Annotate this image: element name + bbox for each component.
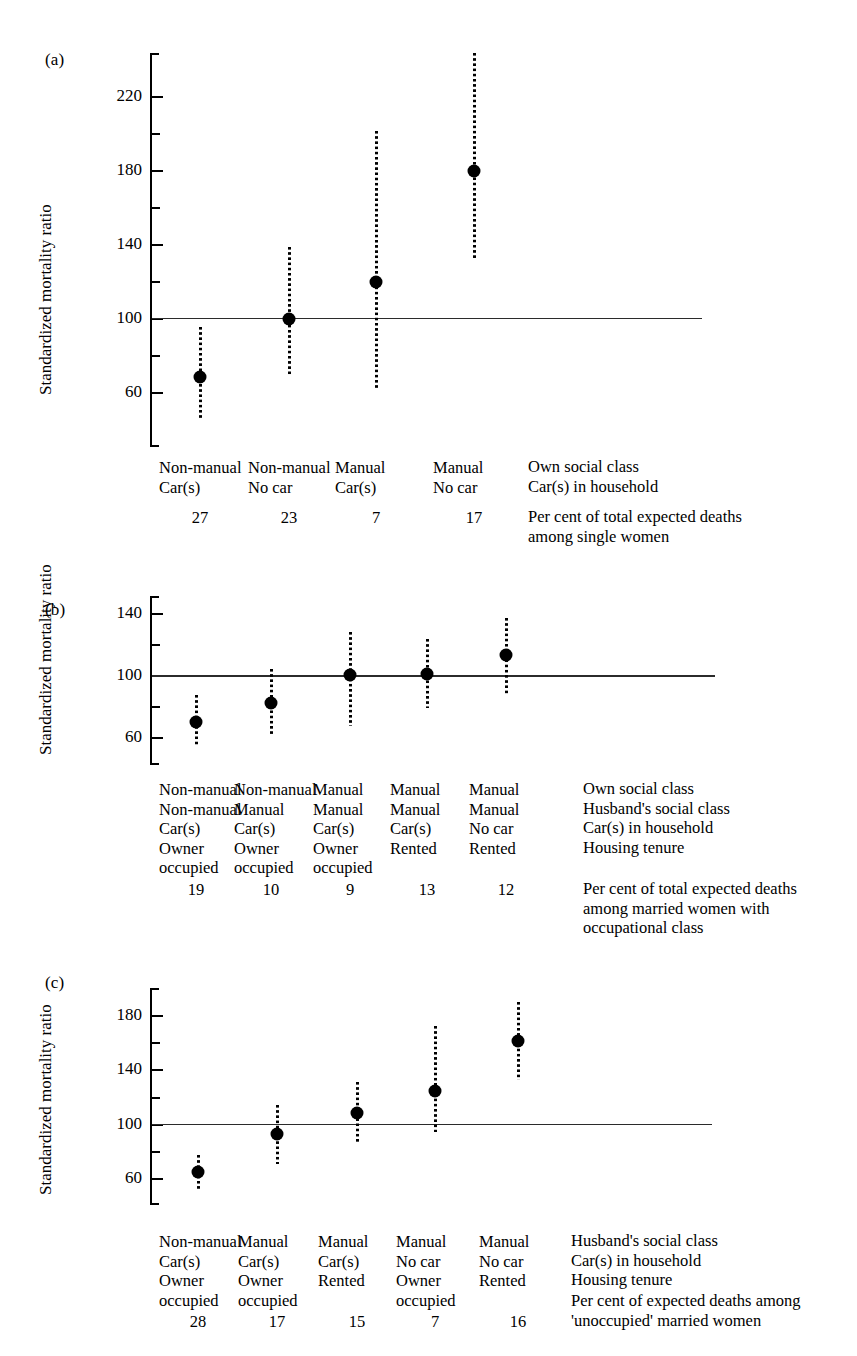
- percent-value: 13: [397, 880, 457, 900]
- percent-value: 28: [168, 1312, 228, 1332]
- percent-value: 9: [320, 880, 380, 900]
- reference-line-100: [152, 675, 715, 677]
- percent-value: 27: [170, 508, 230, 528]
- y-axis-top-cap: [150, 53, 159, 55]
- y-tick-major: [152, 1069, 163, 1071]
- category-label: Non-manual No car: [248, 458, 330, 497]
- percent-value: 17: [444, 508, 504, 528]
- percent-value: 12: [476, 880, 536, 900]
- category-label: Non-manual Car(s) Owner occupied: [159, 1232, 241, 1310]
- y-axis-bottom-cap: [150, 445, 159, 447]
- y-axis-bottom-cap: [150, 763, 159, 765]
- data-point: [512, 1034, 525, 1047]
- reference-line-100: [152, 1124, 712, 1126]
- percent-note: Per cent of total expected deaths among …: [528, 507, 742, 546]
- y-tick-label: 100: [82, 665, 142, 685]
- data-point: [190, 715, 203, 728]
- y-tick-minor: [152, 133, 160, 135]
- category-label: Non-manual Car(s): [159, 458, 241, 497]
- plot-area: 14010060: [150, 596, 753, 765]
- percent-value: 7: [346, 508, 406, 528]
- data-point: [500, 648, 513, 661]
- y-tick-major: [152, 170, 163, 172]
- percent-value: 16: [488, 1312, 548, 1332]
- y-tick-label: 100: [82, 1114, 142, 1134]
- category-label: Manual Car(s) Rented: [318, 1232, 368, 1291]
- category-label: Manual No car: [433, 458, 483, 497]
- y-tick-minor: [152, 1042, 160, 1044]
- data-point: [271, 1128, 284, 1141]
- y-tick-label: 140: [82, 603, 142, 623]
- y-axis-label: Standardized mortality ratio: [36, 895, 56, 1195]
- y-tick-label: 140: [82, 1059, 142, 1079]
- y-tick-major: [152, 244, 163, 246]
- y-axis-top-cap: [150, 988, 159, 990]
- percent-value: 7: [405, 1312, 465, 1332]
- percent-value: 19: [166, 880, 226, 900]
- category-label: Non-manual Non-manual Car(s) Owner occup…: [159, 780, 241, 878]
- y-tick-minor: [152, 706, 160, 708]
- y-tick-minor: [152, 1151, 160, 1153]
- error-bar: [434, 1026, 437, 1132]
- y-tick-major: [152, 613, 163, 615]
- data-point: [351, 1106, 364, 1119]
- y-axis-label: Standardized mortality ratio: [36, 465, 56, 755]
- category-label: Manual Car(s) Owner occupied: [238, 1232, 298, 1310]
- y-tick-major: [152, 392, 163, 394]
- data-point: [429, 1085, 442, 1098]
- category-label: Manual No car Rented: [479, 1232, 529, 1291]
- data-point: [283, 313, 296, 326]
- percent-value: 23: [259, 508, 319, 528]
- error-bar: [473, 53, 476, 260]
- y-tick-minor: [152, 644, 160, 646]
- plot-area: 18014010060: [150, 988, 750, 1205]
- y-tick-label: 60: [82, 727, 142, 747]
- y-tick-minor: [152, 355, 160, 357]
- reference-line-100: [152, 318, 702, 320]
- y-axis-spine: [150, 596, 152, 765]
- y-tick-label: 60: [82, 382, 142, 402]
- percent-value: 15: [327, 1312, 387, 1332]
- y-tick-label: 100: [82, 308, 142, 328]
- y-tick-major: [152, 96, 163, 98]
- y-tick-minor: [152, 207, 160, 209]
- y-tick-minor: [152, 281, 160, 283]
- y-axis-bottom-cap: [150, 1203, 159, 1205]
- data-point: [370, 276, 383, 289]
- percent-note: Per cent of expected deaths among 'unocc…: [571, 1291, 801, 1330]
- category-label: Non-manual Manual Car(s) Owner occupied: [234, 780, 316, 878]
- percent-value: 10: [241, 880, 301, 900]
- category-label: Manual Car(s): [335, 458, 385, 497]
- y-axis-label: Standardized mortality ratio: [36, 55, 56, 395]
- category-label: Manual No car Owner occupied: [396, 1232, 456, 1310]
- y-tick-label: 180: [82, 160, 142, 180]
- y-tick-label: 60: [82, 1168, 142, 1188]
- data-point: [468, 165, 481, 178]
- y-tick-label: 180: [82, 1005, 142, 1025]
- y-tick-major: [152, 1178, 163, 1180]
- percent-value: 17: [247, 1312, 307, 1332]
- data-point: [421, 667, 434, 680]
- y-tick-major: [152, 1015, 163, 1017]
- data-point: [192, 1166, 205, 1179]
- data-point: [344, 669, 357, 682]
- y-axis-spine: [150, 53, 152, 447]
- category-label: Manual Manual No car Rented: [469, 780, 519, 858]
- category-label: Manual Manual Car(s) Rented: [390, 780, 440, 858]
- plot-area: 22018014010060: [150, 53, 740, 447]
- row-descriptor-list: Own social class Car(s) in household: [528, 457, 658, 496]
- y-tick-minor: [152, 1097, 160, 1099]
- error-bar: [375, 131, 378, 388]
- y-tick-label: 220: [82, 86, 142, 106]
- data-point: [265, 696, 278, 709]
- data-point: [194, 370, 207, 383]
- y-tick-major: [152, 737, 163, 739]
- y-tick-label: 140: [82, 234, 142, 254]
- percent-note: Per cent of total expected deaths among …: [583, 879, 797, 938]
- y-axis-top-cap: [150, 596, 159, 598]
- category-label: Manual Manual Car(s) Owner occupied: [313, 780, 373, 878]
- row-descriptor-list: Own social class Husband's social class …: [583, 779, 730, 857]
- error-bar: [288, 247, 291, 375]
- row-descriptor-list: Husband's social class Car(s) in househo…: [571, 1231, 718, 1290]
